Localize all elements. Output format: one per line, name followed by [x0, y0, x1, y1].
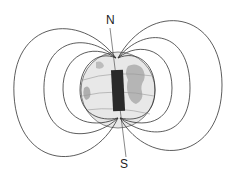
north-pole-label: N — [106, 14, 115, 26]
south-pole-label: S — [120, 158, 128, 170]
magnetic-field-diagram — [0, 0, 234, 182]
bar-magnet — [111, 70, 125, 112]
